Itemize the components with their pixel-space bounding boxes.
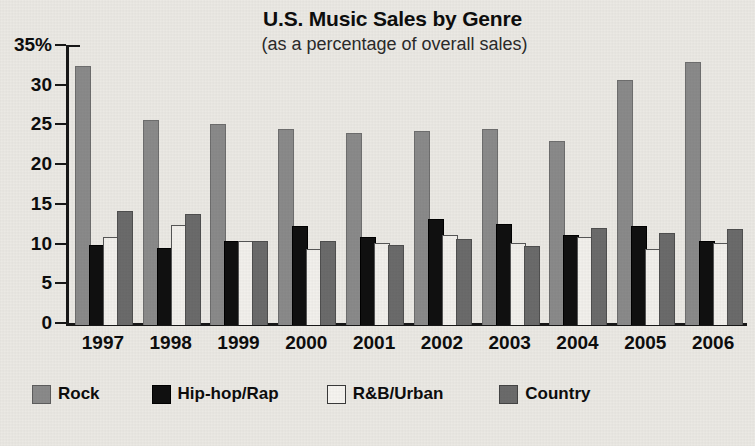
y-axis-tick bbox=[55, 322, 66, 324]
y-axis-tick-label: 5 bbox=[0, 273, 52, 292]
bar-group bbox=[544, 45, 612, 325]
x-axis-label: 2001 bbox=[340, 331, 408, 355]
bar-group bbox=[611, 45, 679, 325]
chart-title: U.S. Music Sales by Genre bbox=[0, 6, 755, 32]
chart-subtitle: (as a percentage of overall sales) bbox=[0, 32, 755, 56]
y-axis-tick bbox=[55, 243, 66, 245]
y-axis-tick bbox=[55, 282, 66, 284]
chart-title-block: U.S. Music Sales by Genre (as a percenta… bbox=[0, 6, 755, 56]
bar bbox=[320, 241, 336, 325]
x-axis-label: 2002 bbox=[408, 331, 476, 355]
y-axis-tick-label: 15 bbox=[0, 194, 52, 213]
bar-group bbox=[340, 45, 408, 325]
x-axis-label: 2003 bbox=[476, 331, 544, 355]
bar-group bbox=[679, 45, 747, 325]
y-axis-tick-label: 25 bbox=[0, 114, 52, 133]
bar-group bbox=[408, 45, 476, 325]
bar bbox=[117, 211, 133, 325]
x-axis-label: 2000 bbox=[272, 331, 340, 355]
y-axis-tick-label: 30 bbox=[0, 75, 52, 94]
country-swatch-icon bbox=[499, 385, 518, 404]
y-axis-tick-label: 10 bbox=[0, 234, 52, 253]
bar-group bbox=[272, 45, 340, 325]
bar bbox=[456, 239, 472, 325]
x-axis-label: 1998 bbox=[137, 331, 205, 355]
bar bbox=[591, 228, 607, 325]
x-axis-label: 2005 bbox=[611, 331, 679, 355]
legend-item-hiphop[interactable]: Hip-hop/Rap bbox=[152, 384, 279, 404]
bar bbox=[659, 233, 675, 325]
bar bbox=[388, 245, 404, 325]
legend-item-label: Country bbox=[525, 384, 590, 404]
legend-item-rnb[interactable]: R&B/Urban bbox=[327, 384, 444, 404]
x-axis-label: 2006 bbox=[679, 331, 747, 355]
bar bbox=[727, 229, 743, 325]
bar-group bbox=[205, 45, 273, 325]
chart-screenshot: U.S. Music Sales by Genre (as a percenta… bbox=[0, 0, 755, 446]
y-axis-tick-label: 20 bbox=[0, 154, 52, 173]
legend-item-country[interactable]: Country bbox=[499, 384, 590, 404]
legend-item-label: Hip-hop/Rap bbox=[178, 384, 279, 404]
rnb-swatch-icon bbox=[327, 385, 346, 404]
bar-group bbox=[137, 45, 205, 325]
legend-item-rock[interactable]: Rock bbox=[32, 384, 100, 404]
y-axis-tick bbox=[55, 203, 66, 205]
legend-item-label: Rock bbox=[58, 384, 100, 404]
bar bbox=[252, 241, 268, 325]
bar-groups bbox=[69, 45, 747, 325]
y-axis-tick bbox=[55, 163, 66, 165]
y-axis-tick bbox=[55, 123, 66, 125]
legend-item-label: R&B/Urban bbox=[353, 384, 444, 404]
rock-swatch-icon bbox=[32, 385, 51, 404]
y-axis-tick-label: 0 bbox=[0, 313, 52, 332]
x-axis-labels: 1997199819992000200120022003200420052006 bbox=[69, 331, 747, 359]
x-axis-label: 2004 bbox=[544, 331, 612, 355]
chart-legend: RockHip-hop/RapR&B/UrbanCountry bbox=[32, 377, 732, 411]
bar bbox=[524, 246, 540, 325]
bar-group bbox=[476, 45, 544, 325]
bar-group bbox=[69, 45, 137, 325]
x-axis-label: 1997 bbox=[69, 331, 137, 355]
y-axis-tick bbox=[55, 84, 66, 86]
x-axis-label: 1999 bbox=[205, 331, 273, 355]
bar bbox=[185, 214, 201, 325]
hiphop-swatch-icon bbox=[152, 385, 171, 404]
